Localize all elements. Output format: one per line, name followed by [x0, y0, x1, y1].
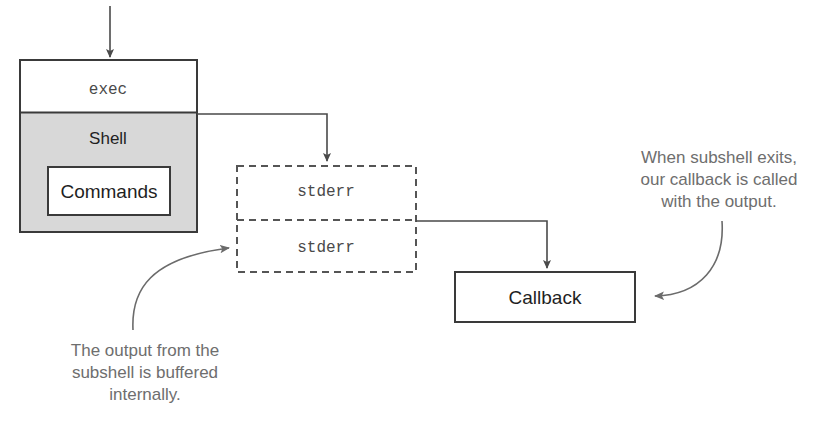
- caption-bottom-line3: internally.: [109, 385, 181, 404]
- diagram-root: exec Shell Commands stderr stderr Callba…: [0, 0, 831, 428]
- commands-label: Commands: [60, 181, 157, 202]
- arrow-buffer-to-callback: [416, 221, 547, 268]
- buffer-top-label: stderr: [297, 183, 355, 201]
- exec-label: exec: [89, 81, 127, 99]
- diagram-canvas: exec Shell Commands stderr stderr Callba…: [0, 0, 831, 428]
- annotation-curve-buffer: [133, 248, 229, 330]
- buffer-bottom-label: stderr: [297, 239, 355, 257]
- caption-right-line2: our callback is called: [641, 170, 798, 189]
- arrow-shell-to-buffer: [197, 114, 327, 161]
- caption-bottom-line2: subshell is buffered: [72, 363, 218, 382]
- caption-right-line3: with the output.: [660, 192, 776, 211]
- shell-label: Shell: [89, 129, 127, 148]
- callback-label: Callback: [509, 287, 582, 308]
- annotation-curve-callback: [655, 221, 722, 296]
- caption-bottom-line1: The output from the: [71, 341, 219, 360]
- caption-right-line1: When subshell exits,: [641, 148, 797, 167]
